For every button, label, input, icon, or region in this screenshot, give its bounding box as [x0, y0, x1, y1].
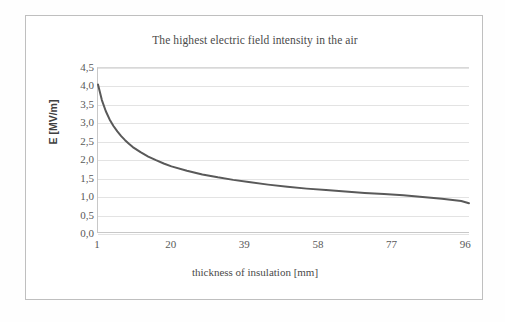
data-line-series — [98, 68, 469, 232]
x-tick-label: 1 — [94, 238, 100, 250]
x-axis-title: thickness of insulation [mm] — [26, 266, 484, 278]
y-tick-label: 2,0 — [60, 153, 94, 165]
x-axis-tick-labels: 12039587796 — [97, 238, 469, 256]
y-tick-label: 1,5 — [60, 172, 94, 184]
x-tick-label: 96 — [460, 238, 471, 250]
y-tick-label: 1,0 — [60, 190, 94, 202]
y-tick-label: 3,5 — [60, 98, 94, 110]
y-tick-label: 2,5 — [60, 135, 94, 147]
y-tick-label: 4,5 — [60, 61, 94, 73]
y-axis-tick-labels: 0,00,51,01,52,02,53,03,54,04,5 — [54, 67, 94, 233]
chart-frame: The highest electric field intensity in … — [25, 15, 483, 300]
data-curve-path — [98, 84, 469, 203]
chart-title: The highest electric field intensity in … — [26, 34, 484, 46]
x-tick-label: 58 — [312, 238, 323, 250]
chart-page: The highest electric field intensity in … — [0, 0, 505, 322]
y-tick-label: 3,0 — [60, 116, 94, 128]
gridline — [98, 234, 469, 235]
y-tick-label: 0,5 — [60, 209, 94, 221]
y-tick-label: 0,0 — [60, 227, 94, 239]
plot-area — [97, 67, 469, 233]
x-tick-label: 20 — [165, 238, 176, 250]
y-tick-label: 4,0 — [60, 79, 94, 91]
x-tick-label: 39 — [239, 238, 250, 250]
x-tick-label: 77 — [386, 238, 397, 250]
